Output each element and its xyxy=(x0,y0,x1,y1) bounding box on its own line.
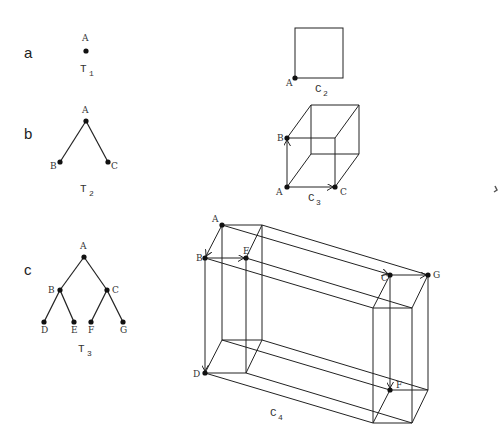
c3-caption-sub: 3 xyxy=(316,198,321,207)
t3-node-e-label: E xyxy=(71,325,78,335)
cube-c2: A C 2 xyxy=(285,28,343,98)
tree-t3: A B C D E F G T 3 xyxy=(41,241,127,358)
t3-node-f-label: F xyxy=(88,325,94,335)
t2-node-c-label: C xyxy=(111,161,118,171)
c3-node-c xyxy=(332,184,337,189)
t3-node-c xyxy=(104,287,109,292)
scan-artifact-mark xyxy=(494,186,497,192)
t3-node-d-label: D xyxy=(41,325,48,335)
t3-caption-sub: 3 xyxy=(87,349,92,358)
t1-node-a-label: A xyxy=(81,33,89,43)
t2-caption-sub: 2 xyxy=(89,189,94,198)
embedding-diagram: a b c A T 1 A B C T 2 A B C xyxy=(0,0,500,440)
c4-node-f xyxy=(387,387,392,392)
t3-node-b xyxy=(57,287,62,292)
c3-node-a-label: A xyxy=(275,187,283,197)
t3-node-b-label: B xyxy=(48,285,55,295)
t1-caption-sub: 1 xyxy=(89,69,94,78)
cube-c4: A B E C G D F C 4 xyxy=(193,214,440,423)
c3-node-b xyxy=(284,135,289,140)
t1-caption: T xyxy=(80,63,87,75)
c4-caption: C xyxy=(270,407,277,419)
t2-node-a xyxy=(83,118,88,123)
c2-caption: C xyxy=(315,83,322,95)
tree-t1: A T 1 xyxy=(80,33,94,78)
t3-node-d xyxy=(41,319,46,324)
row-label-a: a xyxy=(24,44,33,61)
t3-node-a xyxy=(81,254,86,259)
c4-node-f-label: F xyxy=(396,380,402,390)
tree-t2: A B C T 2 xyxy=(50,105,118,198)
c4-node-g xyxy=(425,272,430,277)
t3-node-g-label: G xyxy=(120,325,127,335)
row-label-c: c xyxy=(24,261,32,278)
t3-node-e xyxy=(71,319,76,324)
c2-node-a-label: A xyxy=(285,78,293,88)
t1-node-a xyxy=(83,48,88,53)
cube-c3: A B C C 3 xyxy=(275,105,359,207)
t2-node-b-label: B xyxy=(50,161,57,171)
t3-node-c-label: C xyxy=(112,285,119,295)
t2-caption: T xyxy=(80,183,87,195)
t3-caption: T xyxy=(78,343,85,355)
c4-node-b xyxy=(202,255,207,260)
c3-caption: C xyxy=(308,192,315,204)
c4-caption-sub: 4 xyxy=(278,413,283,422)
row-label-b: b xyxy=(24,125,32,142)
t2-node-a-label: A xyxy=(81,105,89,115)
c3-node-a xyxy=(284,184,289,189)
c2-node-a xyxy=(292,75,297,80)
c4-node-b-label: B xyxy=(196,253,203,263)
t3-node-a-label: A xyxy=(79,241,87,251)
c2-caption-sub: 2 xyxy=(323,89,328,98)
c4-node-e xyxy=(243,255,248,260)
t3-node-f xyxy=(88,319,93,324)
c4-node-e-label: E xyxy=(243,246,250,256)
c4-node-a xyxy=(219,222,224,227)
c4-node-c xyxy=(387,272,392,277)
c4-node-c-label: C xyxy=(381,273,388,283)
c4-node-a-label: A xyxy=(211,214,219,224)
c4-node-d-label: D xyxy=(193,369,200,379)
c4-node-g-label: G xyxy=(433,270,440,280)
t2-node-c xyxy=(105,159,110,164)
t3-node-g xyxy=(120,319,125,324)
c3-node-b-label: B xyxy=(277,133,284,143)
c4-node-d xyxy=(202,370,207,375)
c3-node-c-label: C xyxy=(340,187,347,197)
t2-node-b xyxy=(57,159,62,164)
